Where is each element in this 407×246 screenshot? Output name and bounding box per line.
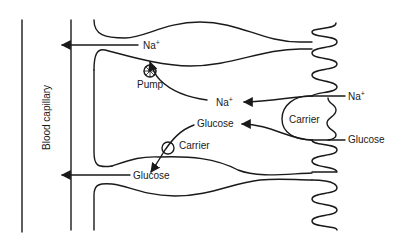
glucose-blood-label: Glucose <box>133 170 170 181</box>
pump-label: Pump <box>137 79 164 90</box>
cell-top-boundary <box>94 20 312 42</box>
microvilli-upper <box>312 23 337 96</box>
transport-diagram: Blood capillary Carrier Na+ Glucose Na+ <box>0 0 407 246</box>
brush-border-microvilli <box>312 23 337 230</box>
microvilli-lower <box>312 140 337 230</box>
na-pump: Pump <box>137 65 164 90</box>
na-to-blood: Na+ <box>62 39 160 51</box>
capillary-label: Blood capillary <box>41 85 52 150</box>
cell-main-top-edge <box>94 49 312 70</box>
cell-bottom-boundary <box>94 179 312 230</box>
na-cell-label: Na+ <box>216 96 233 108</box>
glucose-flow: Glucose Carrier <box>151 118 312 172</box>
apical-glucose-label: Glucose <box>348 134 385 145</box>
basal-carrier-icon <box>162 142 174 154</box>
na-blood-label: Na+ <box>143 39 160 51</box>
apical-carrier-label: Carrier <box>289 114 320 125</box>
apical-carrier: Carrier Na+ Glucose <box>282 90 385 145</box>
na-into-cell-arrow <box>244 96 312 102</box>
basal-carrier-label: Carrier <box>179 140 210 151</box>
glucose-to-blood: Glucose <box>62 170 170 181</box>
na-flow: Na+ <box>150 62 312 108</box>
blood-capillary: Blood capillary <box>22 20 71 232</box>
microvilli-middle <box>327 98 336 140</box>
glucose-cell-label: Glucose <box>197 118 234 129</box>
cell-main-basal-edge <box>94 70 112 167</box>
pump-spokes <box>144 65 156 77</box>
apical-na-label: Na+ <box>348 90 365 102</box>
glucose-into-cell-arrow <box>242 124 312 140</box>
